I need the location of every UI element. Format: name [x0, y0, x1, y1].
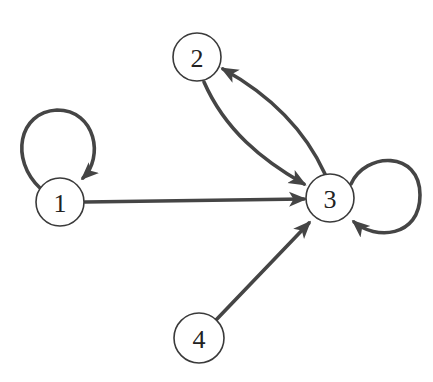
node-1: 1 [36, 178, 84, 226]
edge-4-to-3 [216, 223, 309, 320]
edge-3-to-2 [223, 69, 325, 174]
node-4-label: 4 [193, 325, 206, 354]
edge-3-to-3-self-loop [351, 161, 420, 233]
edge-1-to-3 [85, 199, 304, 202]
node-3-label: 3 [324, 185, 337, 214]
node-4: 4 [174, 313, 224, 363]
directed-graph: 1 2 3 4 [0, 0, 433, 382]
node-2-label: 2 [191, 44, 204, 73]
node-3: 3 [306, 174, 354, 222]
node-1-label: 1 [54, 189, 67, 218]
edge-1-to-1-self-loop [22, 110, 95, 188]
node-2: 2 [173, 33, 221, 81]
edge-2-to-3 [204, 82, 304, 184]
